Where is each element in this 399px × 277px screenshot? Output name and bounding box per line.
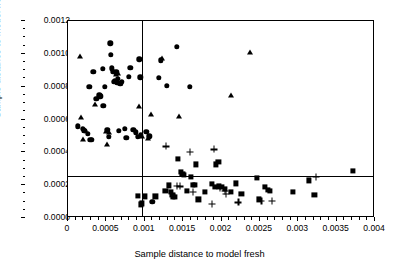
data-point-circle (187, 84, 192, 89)
data-point-circle (89, 137, 94, 142)
data-point-plus (210, 146, 217, 153)
data-point-circle (150, 199, 155, 204)
data-point-circle (101, 103, 106, 108)
x-tick-label: 0.001 (133, 223, 155, 233)
y-tick-minor (23, 143, 26, 144)
data-point-circle (119, 79, 124, 84)
x-tick-minor (190, 217, 191, 220)
x-tick-major (221, 217, 222, 221)
plot-area (67, 20, 374, 217)
data-point-triangle (80, 136, 86, 141)
x-tick-minor (282, 217, 283, 220)
reference-line-vertical (142, 21, 143, 216)
data-point-triangle (78, 115, 84, 120)
data-point-square (267, 188, 272, 193)
y-tick-major (21, 20, 25, 21)
x-tick-label: 0.0035 (322, 223, 348, 233)
x-tick-minor (90, 217, 91, 220)
data-point-plus (223, 190, 230, 197)
data-point-square (181, 172, 186, 177)
y-tick-minor (23, 69, 26, 70)
y-axis-title: Sample distance to model frozen (0, 0, 2, 118)
x-tick-major (259, 217, 260, 221)
x-tick-minor (113, 217, 114, 220)
data-point-triangle (139, 134, 145, 139)
data-point-plus (235, 199, 242, 206)
data-point-square (142, 194, 147, 199)
y-tick-minor (23, 135, 26, 136)
data-point-square (254, 175, 259, 180)
data-point-triangle (104, 142, 110, 147)
data-point-square (188, 175, 193, 180)
y-tick-major (21, 151, 25, 152)
data-point-square (290, 189, 295, 194)
data-point-square (139, 201, 144, 206)
data-point-square (312, 192, 317, 197)
data-point-circle (156, 75, 161, 80)
data-point-square (233, 181, 238, 186)
x-tick-label: 0.003 (286, 223, 308, 233)
x-tick-minor (366, 217, 367, 220)
data-point-circle (122, 126, 127, 131)
y-tick-minor (23, 192, 26, 193)
y-tick-minor (23, 201, 26, 202)
y-tick-minor (23, 45, 26, 46)
y-tick-minor (23, 127, 26, 128)
data-point-triangle (228, 93, 234, 98)
data-point-circle (164, 83, 169, 88)
x-tick-minor (274, 217, 275, 220)
y-tick-major (21, 119, 25, 120)
data-point-plus (163, 143, 170, 150)
x-tick-minor (351, 217, 352, 220)
x-tick-minor (205, 217, 206, 220)
x-tick-label: 0.0015 (169, 223, 195, 233)
x-tick-minor (313, 217, 314, 220)
data-point-circle (124, 135, 129, 140)
data-point-plus (208, 200, 215, 207)
data-point-triangle (77, 53, 83, 58)
x-axis-title: Sample distance to model fresh (0, 249, 399, 259)
y-tick-minor (23, 168, 26, 169)
data-point-triangle (106, 130, 112, 135)
x-tick-minor (359, 217, 360, 220)
data-point-circle (116, 128, 121, 133)
x-tick-minor (343, 217, 344, 220)
scatter-chart: Sample distance to model frozen Sample d… (0, 0, 399, 277)
data-point-triangle (159, 56, 165, 61)
x-tick-minor (75, 217, 76, 220)
y-tick-minor (23, 176, 26, 177)
x-tick-minor (98, 217, 99, 220)
x-tick-major (144, 217, 145, 221)
x-tick-label: 0.0005 (92, 223, 118, 233)
data-point-triangle (145, 135, 151, 140)
data-point-circle (174, 44, 179, 49)
x-tick-minor (136, 217, 137, 220)
y-tick-minor (23, 36, 26, 37)
x-tick-minor (328, 217, 329, 220)
y-tick-minor (23, 102, 26, 103)
data-point-circle (100, 66, 105, 71)
x-tick-major (374, 217, 375, 221)
data-point-plus (258, 197, 265, 204)
x-tick-minor (121, 217, 122, 220)
data-point-square (175, 156, 180, 161)
data-point-circle (127, 65, 132, 70)
data-point-circle (102, 84, 107, 89)
data-point-square (172, 194, 177, 199)
data-point-square (350, 168, 355, 173)
y-tick-major (21, 53, 25, 54)
data-point-square (239, 191, 244, 196)
x-tick-minor (151, 217, 152, 220)
data-point-plus (187, 148, 194, 155)
x-tick-label: 0.004 (363, 223, 385, 233)
data-point-circle (98, 93, 103, 98)
data-point-square (153, 194, 158, 199)
x-tick-minor (251, 217, 252, 220)
x-tick-minor (320, 217, 321, 220)
x-tick-major (336, 217, 337, 221)
data-point-square (216, 160, 221, 165)
x-tick-minor (213, 217, 214, 220)
data-point-square (196, 197, 201, 202)
x-tick-minor (290, 217, 291, 220)
data-point-plus (190, 188, 197, 195)
